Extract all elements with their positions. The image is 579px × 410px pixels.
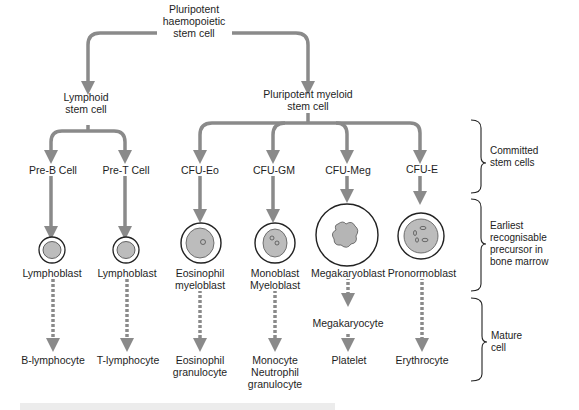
pronormoblast-cell	[398, 213, 444, 259]
committed-pre-t-cell: Pre-T Cell	[102, 164, 149, 176]
mature-monocyte-neutrophil: MonocyteNeutrophilgranulocyte	[248, 354, 302, 390]
committed-pre-b-cell: Pre-B Cell	[29, 164, 77, 176]
mature-eosinophil-granulocyte: Eosinophilgranulocyte	[173, 354, 227, 378]
myeloblast-cell	[255, 223, 295, 263]
committed-cfu-eo: CFU-Eo	[181, 164, 219, 176]
committed-cfu-meg: CFU-Meg	[325, 164, 371, 176]
solid-arrows	[51, 33, 420, 233]
root-stem-cell-label: Pluripotenthaemopoieticstem cell	[161, 3, 227, 39]
stage-earliest-precursor: Earliestrecognisableprecursor inbone mar…	[490, 220, 548, 268]
haemopoiesis-diagram: Pluripotenthaemopoieticstem cell Lymphoi…	[0, 0, 579, 410]
committed-cfu-e: CFU-E	[406, 163, 438, 175]
dashed-arrows	[53, 272, 422, 345]
mature-b-lymphocyte: B-lymphocyte	[21, 354, 85, 366]
stage-mature-cell: Maturecell	[491, 330, 522, 354]
root-label-l1: Pluripotenthaemopoieticstem cell	[163, 3, 225, 39]
mature-platelet: Platelet	[331, 354, 366, 366]
myeloid-stem-cell-label: Pluripotent myeloidstem cell	[263, 88, 352, 112]
precursor-lymphoblast-t: Lymphoblast	[97, 267, 156, 279]
precursor-monoblast-myeloblast: MonoblastMyeloblast	[250, 267, 300, 291]
lymphoblast-t-cell	[113, 237, 139, 263]
precursor-pronormoblast: Pronormoblast	[388, 267, 456, 279]
lymphoid-stem-cell-label: Lymphoidstem cell	[63, 91, 108, 115]
mature-t-lymphocyte: T-lymphocyte	[97, 354, 159, 366]
precursor-megakaryoblast: Megakaryoblast	[311, 267, 385, 279]
precursor-eosinophil-myeloblast: Eosinophilmyeloblast	[175, 267, 225, 291]
intermediate-megakaryocyte: Megakaryocyte	[312, 317, 383, 329]
precursor-lymphoblast-b: Lymphoblast	[22, 267, 81, 279]
eosinophil-myeloblast-cell	[181, 223, 221, 263]
footer-band	[20, 403, 335, 410]
mature-erythrocyte: Erythrocyte	[395, 354, 448, 366]
megakaryoblast-cell	[316, 204, 378, 266]
stage-brackets	[471, 120, 487, 381]
stage-committed-stem-cells: Committedstem cells	[490, 145, 538, 169]
lymphoblast-b-cell	[39, 237, 65, 263]
committed-cfu-gm: CFU-GM	[253, 164, 295, 176]
